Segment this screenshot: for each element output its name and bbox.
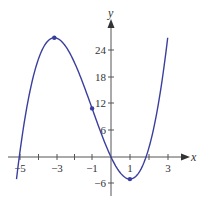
x-tick-label: −5: [14, 162, 26, 174]
function-plot: x y −5 −3 −1 1 3 24 18 12 6 −6: [0, 0, 198, 199]
marked-point: [90, 106, 94, 110]
y-tick-label: 24: [95, 44, 107, 56]
y-axis-name: y: [107, 6, 114, 20]
x-axis-name: x: [190, 150, 197, 164]
x-axis-arrow-icon: [181, 154, 190, 161]
marked-point: [52, 36, 56, 40]
y-tick-label: −6: [94, 177, 106, 189]
x-tick-label: −3: [51, 162, 63, 174]
x-tick-label: −1: [86, 162, 98, 174]
x-tick-label: 3: [165, 162, 171, 174]
y-tick-label: 12: [95, 97, 106, 109]
x-tick-labels: −5 −3 −1 1 3: [14, 162, 171, 174]
marked-point: [128, 177, 132, 181]
y-tick-label: 18: [95, 71, 107, 83]
y-axis-arrow-icon: [108, 19, 115, 28]
x-tick-label: 1: [127, 162, 133, 174]
